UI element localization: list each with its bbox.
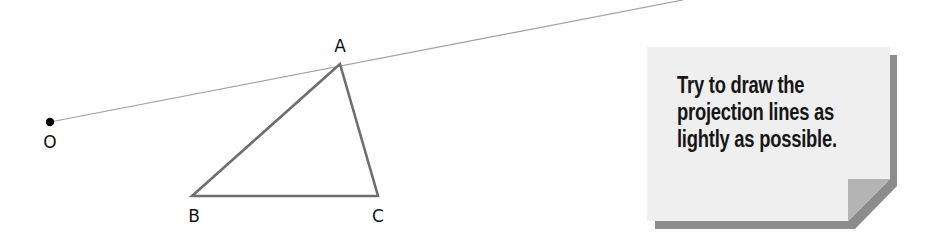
point-label-a: A (334, 38, 346, 55)
triangle-abc (192, 64, 378, 196)
point-label-c: C (372, 208, 384, 225)
note-line-2: projection lines as (677, 99, 837, 126)
projection-diagram: A O B C Try to draw the projection lines… (0, 0, 928, 239)
note-line-1: Try to draw the (677, 72, 837, 99)
point-label-b: B (188, 208, 200, 225)
sticky-note-text: Try to draw the projection lines as ligh… (677, 72, 837, 153)
point-label-o: O (43, 134, 56, 151)
point-o-dot (46, 118, 54, 126)
projection-line (50, 0, 683, 122)
note-line-3: lightly as possible. (677, 126, 837, 153)
